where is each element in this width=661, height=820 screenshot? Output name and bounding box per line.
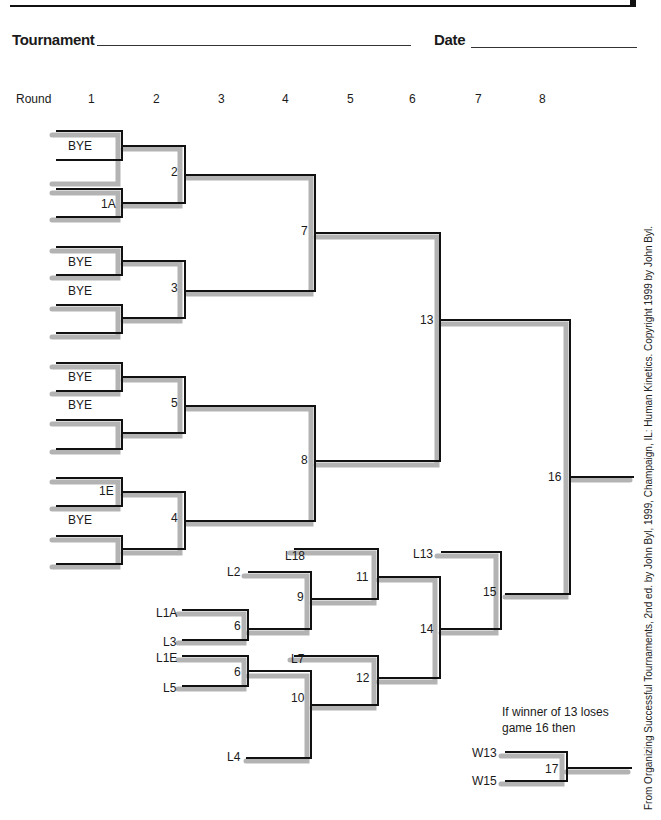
game-6b: 6 [234,665,241,679]
round1-slot-13: 1E [99,484,114,498]
losers-entry-l5: L5 [163,681,176,695]
if-needed-entry-w13: W13 [472,746,497,760]
game-3: 3 [171,281,178,295]
game-17: 17 [545,762,558,776]
losers-entry-l13: L13 [413,547,433,561]
round1-slot-4: 1A [101,197,116,211]
copyright-credit: From Organizing Successful Tournaments, … [643,226,654,810]
if-needed-entry-w15: W15 [472,774,497,788]
game-14: 14 [420,622,433,636]
round1-slot-9: BYE [68,370,92,384]
round1-slot-15: BYE [68,513,92,527]
game-9: 9 [297,590,304,604]
round1-slot-5: BYE [68,255,92,269]
if-needed-note-line1: If winner of 13 loses [502,704,609,720]
losers-entry-l1e: L1E [156,651,177,665]
game-2: 2 [171,165,178,179]
game-13: 13 [420,313,433,327]
round1-slot-6: BYE [68,284,92,298]
losers-entry-l2: L2 [227,565,240,579]
game-5: 5 [171,396,178,410]
game-12: 12 [356,671,369,685]
game-16: 16 [548,470,561,484]
game-7: 7 [301,224,308,238]
game-10: 10 [291,691,304,705]
bracket-lines [0,0,661,820]
losers-entry-l1a: L1A [156,606,177,620]
losers-entry-l7: L7 [291,652,304,666]
losers-entry-l4: L4 [227,750,240,764]
if-needed-note-line2: game 16 then [502,720,609,736]
if-needed-note: If winner of 13 loses game 16 then [502,704,609,736]
game-6a: 6 [234,619,241,633]
bracket-main-lines [56,131,634,781]
losers-entry-l3: L3 [163,635,176,649]
game-4: 4 [171,511,178,525]
game-11: 11 [356,570,368,584]
round1-slot-10: BYE [68,398,92,412]
round1-slot-1: BYE [68,139,92,153]
game-8: 8 [301,453,308,467]
losers-entry-l18: L18 [285,549,305,563]
game-15: 15 [483,585,496,599]
